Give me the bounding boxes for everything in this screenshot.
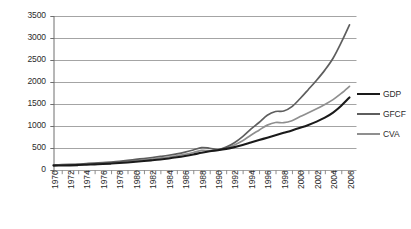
x-axis-tick-label-text: 1982 [148,170,158,189]
x-axis-tick-label: 2000 [296,179,306,219]
x-axis-tick-label-text: 2004 [329,170,339,189]
x-axis-tick-label-text: 1998 [280,170,290,189]
x-axis-tick-label-text: 2002 [313,170,323,189]
x-axis-tick-label-text: 1992 [230,170,240,189]
x-axis-tick-label: 1980 [132,179,142,219]
x-axis-tick-label-text: 2000 [296,170,306,189]
x-axis-tick-label: 1992 [230,179,240,219]
legend-item-cva[interactable]: CVA [357,124,411,144]
x-axis-tick-label: 1970 [50,179,60,219]
x-axis-tick-label: 1982 [148,179,158,219]
x-axis-tick-label: 2006 [346,179,356,219]
legend-line-swatch [357,113,380,115]
x-axis-tick-label: 1978 [115,179,125,219]
x-axis-tick-label-text: 1974 [82,170,92,189]
x-axis-tick-label-text: 1986 [181,170,191,189]
x-axis-tick-label: 2004 [329,179,339,219]
x-axis-tick-label-text: 1996 [263,170,273,189]
legend-item-label: GFCF [383,110,406,119]
x-axis-tick-label-text: 1970 [50,170,60,189]
legend-item-gdp[interactable]: GDP [357,84,411,104]
x-axis-tick-label-text: 1976 [99,170,109,189]
x-axis-tick-label-text: 1984 [165,170,175,189]
legend-item-label: CVA [383,130,400,139]
x-axis-tick-label: 1984 [165,179,175,219]
x-axis-tick-label-text: 1994 [247,170,257,189]
x-axis-tick-label: 1976 [99,179,109,219]
legend-line-swatch [357,93,380,95]
chart-screenshot: 0500100015002000250030003500 19701972197… [0,0,411,229]
x-axis-tick-label: 1986 [181,179,191,219]
line-chart: 0500100015002000250030003500 19701972197… [0,0,411,229]
x-axis-tick-label: 1996 [263,179,273,219]
x-axis-tick-label-text: 2006 [346,170,356,189]
legend-item-label: GDP [383,90,401,99]
x-axis-tick-label: 1974 [82,179,92,219]
x-axis-tick-label: 1994 [247,179,257,219]
x-axis-tick-labels: 1970197219741976197819801982198419861988… [0,0,411,229]
x-axis-tick-label: 1988 [198,179,208,219]
x-axis-tick-label-text: 1972 [66,170,76,189]
legend-line-swatch [357,133,380,135]
chart-legend: GDPGFCFCVA [357,84,411,144]
x-axis-tick-label: 1990 [214,179,224,219]
x-axis-tick-label-text: 1988 [198,170,208,189]
legend-item-gfcf[interactable]: GFCF [357,104,411,124]
x-axis-tick-label-text: 1990 [214,170,224,189]
x-axis-tick-label: 1972 [66,179,76,219]
x-axis-tick-label: 1998 [280,179,290,219]
x-axis-tick-label-text: 1980 [132,170,142,189]
x-axis-tick-label-text: 1978 [115,170,125,189]
x-axis-tick-label: 2002 [313,179,323,219]
